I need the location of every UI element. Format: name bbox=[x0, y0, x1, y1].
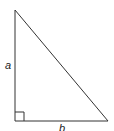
triangle-outline bbox=[15, 10, 108, 121]
right-triangle-diagram: a b bbox=[0, 0, 114, 131]
right-angle-marker-icon bbox=[15, 112, 24, 121]
side-a-label: a bbox=[5, 60, 11, 71]
side-b-label: b bbox=[59, 123, 65, 131]
triangle-figure bbox=[0, 0, 114, 131]
